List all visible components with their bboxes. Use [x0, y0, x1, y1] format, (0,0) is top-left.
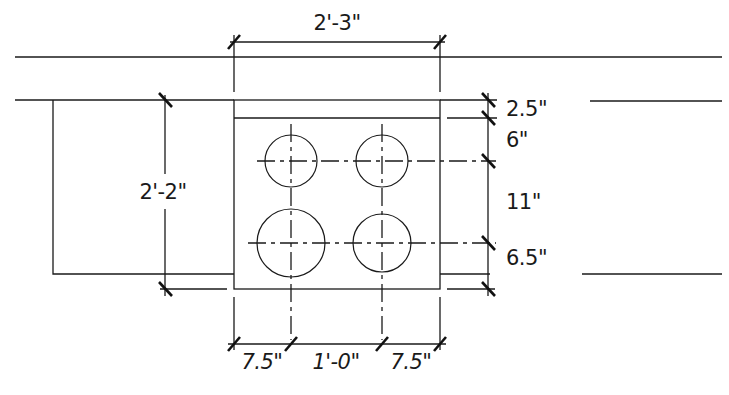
dimension-label-2-5: 2.5"	[506, 97, 547, 121]
dimension-label-bottom-middle: 1'-0"	[312, 350, 359, 374]
dimension-bottom-chain: 7.5" 1'-0" 7.5"	[228, 297, 446, 374]
dimension-label-6-5: 6.5"	[506, 246, 547, 270]
dimension-label-bottom-left: 7.5"	[241, 350, 282, 374]
reference-lines	[15, 57, 722, 274]
dimension-label-overall-height: 2'-2"	[139, 180, 186, 204]
dimension-label-overall-width: 2'-3"	[313, 11, 360, 35]
dimension-label-6: 6"	[506, 128, 528, 152]
anchor-holes	[257, 135, 411, 277]
dimension-right-chain: 2.5" 6" 11" 6.5"	[440, 93, 547, 296]
cad-drawing: 2'-3" 2'-2" 2.5" 6" 11" 6.5" 7.5" 1'-	[0, 0, 729, 395]
base-plate-outline	[234, 100, 440, 289]
dimension-label-11: 11"	[506, 190, 541, 214]
dimension-label-bottom-right: 7.5"	[390, 350, 431, 374]
dimension-left-height: 2'-2"	[139, 93, 227, 296]
base-plate	[234, 100, 490, 289]
center-lines	[248, 124, 496, 340]
dimension-top-width: 2'-3"	[228, 11, 446, 92]
